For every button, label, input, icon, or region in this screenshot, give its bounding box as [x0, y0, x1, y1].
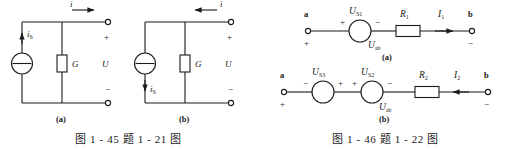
figure-1-45-caption: 图 1 - 45 题 1 - 21 图 — [0, 130, 257, 146]
resistor-r2-label: R2 — [418, 70, 428, 81]
figure-1-46-canvas: a + US1 + − Uab R1 — [257, 0, 514, 130]
part-label-1-46-a: (a) — [382, 52, 392, 62]
source-current-label-a: iS — [27, 29, 33, 40]
node-label-b-bottom: b — [484, 70, 489, 80]
voltage-source-us1 — [349, 20, 371, 42]
conductance-label-a: G — [72, 59, 79, 69]
terminal-a-node-b — [281, 89, 286, 94]
us2-plus-sign: + — [352, 78, 357, 88]
terminal-top-b — [228, 19, 233, 24]
voltage-label-a: U — [102, 59, 109, 69]
subfigure-1-46-a: a + US1 + − Uab R1 — [304, 6, 475, 62]
terminal-b-node-a — [469, 28, 474, 33]
conductance-symbol-b — [180, 55, 190, 72]
voltage-source-us2 — [361, 81, 383, 103]
figure-1-46: a + US1 + − Uab R1 — [257, 0, 514, 158]
node-label-a-top: a — [304, 9, 309, 19]
branch-voltage-label-a: Uab — [368, 40, 381, 51]
node-label-b-top: b — [468, 9, 473, 19]
node-b-polarity-minus-b: − — [484, 99, 489, 109]
resistor-r1 — [396, 26, 420, 37]
node-b-polarity-minus: − — [468, 38, 473, 48]
us3-plus-sign: + — [338, 78, 343, 88]
subfigure-1-46-b: a + US3 − + US2 + − Uab — [280, 67, 491, 124]
voltage-source-us3 — [312, 81, 334, 103]
terminal-a-node-a — [305, 28, 310, 33]
voltage-source-us3-label: US3 — [312, 67, 325, 78]
terminal-current-label-b: i — [220, 0, 223, 9]
us1-minus-sign: − — [375, 17, 380, 27]
part-label-1-45-b: (b) — [179, 114, 190, 124]
part-label-1-46-b: (b) — [379, 114, 390, 124]
us2-minus-sign: − — [387, 78, 392, 88]
node-a-polarity-plus-b: + — [280, 99, 285, 109]
part-label-1-45-a: (a) — [56, 114, 66, 124]
resistor-r1-label: R1 — [399, 9, 409, 20]
conductance-symbol-a — [57, 55, 67, 72]
figure-1-45: iS G i + − U (a) — [0, 0, 257, 158]
us3-minus-sign: − — [303, 78, 308, 88]
subfigure-1-45-a: iS G i + − U (a) — [12, 0, 111, 124]
terminal-bottom-b — [228, 100, 233, 105]
polarity-plus-b: + — [227, 32, 232, 42]
polarity-plus-a: + — [104, 32, 109, 42]
current-i2-label: I2 — [453, 70, 460, 81]
voltage-label-b: U — [225, 59, 232, 69]
us1-plus-sign: + — [340, 17, 345, 27]
voltage-source-us2-label: US2 — [361, 67, 374, 78]
terminal-top-a — [105, 19, 110, 24]
conductance-label-b: G — [195, 59, 202, 69]
polarity-minus-b: − — [228, 84, 233, 94]
node-a-polarity-plus: + — [304, 38, 309, 48]
terminal-b-node-b — [485, 89, 490, 94]
terminal-bottom-a — [105, 100, 110, 105]
voltage-source-us1-label: US1 — [349, 6, 362, 17]
figure-1-46-caption: 图 1 - 46 题 1 - 22 图 — [257, 130, 514, 146]
figure-page: iS G i + − U (a) — [0, 0, 514, 158]
polarity-minus-a: − — [105, 84, 110, 94]
resistor-r2 — [415, 87, 439, 98]
terminal-current-label-a: i — [70, 0, 73, 9]
current-i1-label: I1 — [437, 9, 444, 20]
source-current-label-b: iS — [150, 84, 156, 95]
subfigure-1-45-b: iS G i + − U (b) — [135, 0, 234, 124]
branch-voltage-label-b: Uab — [379, 102, 392, 113]
figure-1-45-canvas: iS G i + − U (a) — [0, 0, 257, 130]
node-label-a-bottom: a — [280, 70, 285, 80]
